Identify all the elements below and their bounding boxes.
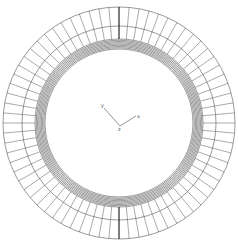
axis-triad: y x z (101, 102, 140, 132)
annulus-mesh (3, 7, 235, 239)
x-axis-label: x (137, 113, 140, 119)
mesh-diagram: y x z (0, 0, 238, 244)
origin-label: z (118, 126, 121, 132)
y-axis-label: y (101, 102, 104, 109)
